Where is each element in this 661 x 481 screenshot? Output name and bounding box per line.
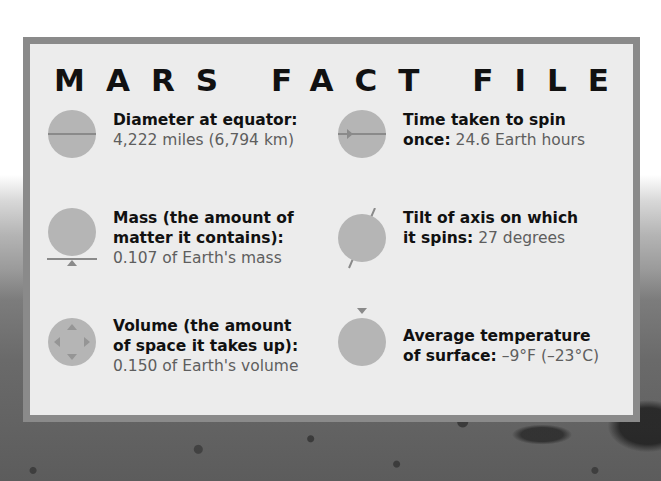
fact-label: Mass (the amount of [113, 209, 294, 227]
page-title: MARS FACT FILE [30, 62, 633, 98]
fact-volume: Volume (the amount of space it takes up)… [47, 318, 337, 398]
fact-file-card: MARS FACT FILE Diameter at equator: 4,22… [23, 37, 640, 422]
fact-label: Time taken to spin [403, 111, 566, 129]
fact-label-line2: matter it contains): [113, 229, 284, 247]
fact-label-line2: once: [403, 131, 451, 149]
fact-text: Diameter at equator: 4,222 miles (6,794 … [113, 110, 298, 150]
fact-label-line2: of surface: [403, 347, 497, 365]
fact-text: Mass (the amount of matter it contains):… [113, 208, 294, 268]
fact-value: 0.107 of Earth's mass [113, 249, 282, 267]
fact-value: 24.6 Earth hours [456, 131, 586, 149]
mass-scale-icon [47, 208, 97, 278]
fact-rotation: Time taken to spin once: 24.6 Earth hour… [337, 110, 627, 190]
fact-label: Volume (the amount [113, 317, 291, 335]
fact-text: Volume (the amount of space it takes up)… [113, 316, 298, 376]
fact-text: Average temperature of surface: –9°F (–2… [403, 326, 599, 366]
diameter-icon [47, 110, 97, 180]
fact-value: 27 degrees [478, 229, 565, 247]
fact-text: Time taken to spin once: 24.6 Earth hour… [403, 110, 585, 150]
temperature-icon [337, 308, 387, 378]
fact-label-line2: of space it takes up): [113, 337, 298, 355]
fact-value: 4,222 miles (6,794 km) [113, 131, 294, 149]
fact-text: Tilt of axis on which it spins: 27 degre… [403, 208, 578, 248]
fact-value: 0.150 of Earth's volume [113, 357, 298, 375]
fact-label: Average temperature [403, 327, 591, 345]
fact-temperature: Average temperature of surface: –9°F (–2… [337, 308, 627, 388]
fact-label: Diameter at equator: [113, 111, 298, 129]
volume-icon [47, 318, 97, 388]
fact-axis-tilt: Tilt of axis on which it spins: 27 degre… [337, 208, 627, 288]
axis-tilt-icon [337, 208, 387, 278]
fact-label: Tilt of axis on which [403, 209, 578, 227]
fact-diameter: Diameter at equator: 4,222 miles (6,794 … [47, 110, 337, 190]
fact-label-line2: it spins: [403, 229, 473, 247]
fact-mass: Mass (the amount of matter it contains):… [47, 208, 337, 288]
rotation-icon [337, 110, 387, 180]
fact-value: –9°F (–23°C) [502, 347, 599, 365]
